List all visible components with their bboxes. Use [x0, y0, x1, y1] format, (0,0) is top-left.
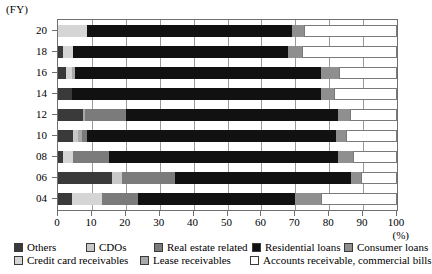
bar-segment — [73, 151, 109, 163]
x-tick-label-10: 10 — [85, 216, 96, 228]
x-tick-label-30: 30 — [153, 216, 164, 228]
y-tick-label-12: 12 — [36, 108, 47, 120]
y-tick-label-10: 10 — [36, 129, 47, 141]
bar-segment — [87, 130, 336, 142]
bar-segment — [295, 193, 320, 205]
bar-segment — [339, 67, 397, 79]
bar-segment — [321, 88, 335, 100]
bar-segment — [109, 151, 338, 163]
bar-segment — [292, 25, 304, 37]
legend-item: Others — [14, 241, 56, 253]
bar-segment — [102, 193, 138, 205]
legend-item: Credit card receivables — [14, 254, 128, 266]
x-tick-label-40: 40 — [187, 216, 198, 228]
y-tick-label-20: 20 — [36, 24, 47, 36]
bar-rows — [58, 20, 397, 210]
bar-segment — [288, 46, 302, 58]
x-tick-label-50: 50 — [221, 216, 232, 228]
legend-item: Accounts receivable, commercial bills — [250, 254, 432, 266]
legend-row-1: OthersCDOsReal estate relatedResidential… — [14, 241, 414, 254]
bar-segment — [338, 151, 353, 163]
legend-item: Real estate related — [154, 241, 248, 253]
y-tick-mark-14 — [52, 93, 57, 94]
y-tick-label-06: 06 — [36, 171, 47, 183]
bar-row-fy16 — [58, 67, 397, 79]
bar-segment — [351, 172, 361, 184]
legend-item: Lease receivables — [140, 254, 231, 266]
legend-label: Lease receivables — [153, 254, 231, 266]
y-tick-label-18: 18 — [36, 45, 47, 57]
bar-segment — [346, 130, 397, 142]
bar-segment — [321, 193, 397, 205]
bar-row-fy20 — [58, 25, 397, 37]
bar-segment — [126, 109, 338, 121]
bar-segment — [58, 67, 66, 79]
legend-label: CDOs — [99, 241, 127, 253]
bar-segment — [58, 130, 73, 142]
legend-item: CDOs — [86, 241, 127, 253]
legend-label: Consumer loans — [357, 241, 428, 253]
bar-segment — [336, 130, 346, 142]
bar-segment — [72, 88, 321, 100]
plot-area — [57, 19, 398, 211]
bar-row-fy18 — [58, 46, 397, 58]
x-tick-label-70: 70 — [289, 216, 300, 228]
bar-segment — [75, 67, 321, 79]
bar-segment — [112, 172, 122, 184]
legend-label: Credit card receivables — [27, 254, 128, 266]
bar-segment — [58, 193, 72, 205]
bar-row-fy08 — [58, 151, 397, 163]
y-tick-label-04: 04 — [36, 192, 47, 204]
bar-segment — [353, 151, 397, 163]
legend-swatch-icon — [344, 243, 353, 252]
legend-swatch-icon — [140, 256, 149, 265]
y-tick-mark-08 — [52, 156, 57, 157]
bar-segment — [334, 88, 397, 100]
x-tick-label-90: 90 — [357, 216, 368, 228]
bar-row-fy14 — [58, 88, 397, 100]
legend-item: Consumer loans — [344, 241, 428, 253]
bar-segment — [361, 172, 397, 184]
bar-segment — [58, 25, 87, 37]
y-tick-mark-18 — [52, 51, 57, 52]
bar-segment — [72, 193, 103, 205]
bar-segment — [175, 172, 351, 184]
bar-segment — [304, 25, 397, 37]
legend-label: Residential loans — [265, 241, 340, 253]
x-tick-label-80: 80 — [323, 216, 334, 228]
y-tick-mark-04 — [52, 198, 57, 199]
legend-swatch-icon — [154, 243, 163, 252]
legend-item: Residential loans — [252, 241, 340, 253]
legend-swatch-icon — [14, 256, 23, 265]
x-axis-tick-labels: 0102030405060708090100 — [0, 216, 427, 230]
y-axis-tick-labels: 201816141210080604 — [0, 19, 55, 211]
bar-segment — [338, 109, 350, 121]
y-tick-label-14: 14 — [36, 87, 47, 99]
bar-segment — [58, 172, 112, 184]
legend-label: Others — [27, 241, 56, 253]
bar-segment — [138, 193, 296, 205]
y-tick-label-08: 08 — [36, 150, 47, 162]
legend: OthersCDOsReal estate relatedResidential… — [14, 241, 414, 267]
bar-row-fy10 — [58, 130, 397, 142]
bar-segment — [58, 88, 72, 100]
bar-segment — [63, 46, 73, 58]
y-tick-label-16: 16 — [36, 66, 47, 78]
legend-swatch-icon — [250, 256, 259, 265]
bar-row-fy12 — [58, 109, 397, 121]
legend-label: Real estate related — [167, 241, 248, 253]
x-tick-label-20: 20 — [119, 216, 130, 228]
bar-segment — [73, 46, 288, 58]
legend-label: Accounts receivable, commercial bills — [263, 254, 432, 266]
y-tick-mark-06 — [52, 177, 57, 178]
bar-segment — [321, 67, 340, 79]
bar-row-fy06 — [58, 172, 397, 184]
y-tick-mark-12 — [52, 114, 57, 115]
x-tick-label-60: 60 — [255, 216, 266, 228]
x-tick-label-0: 0 — [54, 216, 60, 228]
legend-swatch-icon — [252, 243, 261, 252]
bar-segment — [58, 109, 83, 121]
x-axis-unit-label: (%) — [393, 229, 410, 241]
bar-segment — [87, 25, 292, 37]
